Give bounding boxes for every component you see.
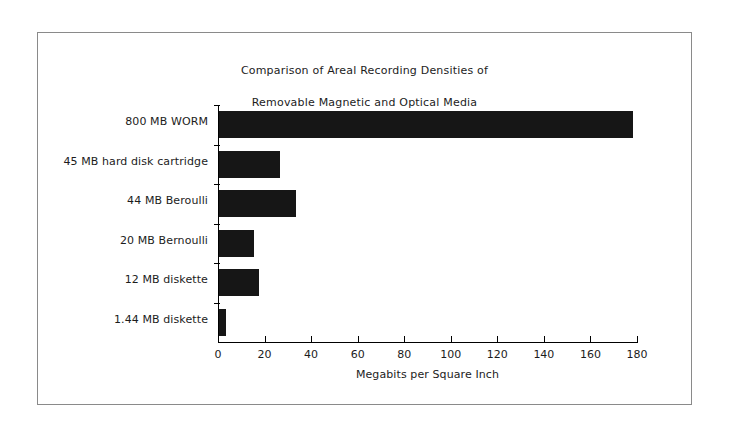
category-label: 12 MB diskette [125, 273, 208, 286]
chart-page: Comparison of Areal Recording Densities … [0, 0, 731, 440]
plot-area: 800 MB WORM 45 MB hard disk cartridge 44… [218, 105, 637, 342]
category-label: 44 MB Beroulli [127, 194, 208, 207]
y-axis-tick [214, 145, 220, 146]
x-axis-tick [451, 336, 452, 343]
x-axis-tick [590, 336, 591, 343]
y-axis-tick [214, 105, 220, 106]
y-axis-tick [214, 184, 220, 185]
x-axis-tick [637, 336, 638, 343]
x-axis-tick [311, 336, 312, 343]
x-axis-title: Megabits per Square Inch [218, 368, 637, 381]
x-axis-tick [218, 336, 219, 343]
x-axis-tick-label: 40 [304, 348, 318, 361]
category-label: 1.44 MB diskette [114, 313, 208, 326]
bar [219, 309, 226, 336]
category-label: 800 MB WORM [125, 115, 208, 128]
category-label: 45 MB hard disk cartridge [63, 155, 208, 168]
x-axis-tick [497, 336, 498, 343]
bar [219, 151, 280, 178]
bar [219, 111, 633, 138]
x-axis-tick-label: 180 [627, 348, 648, 361]
bar [219, 230, 254, 257]
x-axis-line [218, 342, 638, 343]
x-axis-tick-label: 100 [440, 348, 461, 361]
x-axis-tick-label: 20 [258, 348, 272, 361]
x-axis-tick-label: 60 [351, 348, 365, 361]
figure-frame: Comparison of Areal Recording Densities … [37, 32, 692, 405]
chart-title-line-1: Comparison of Areal Recording Densities … [38, 63, 691, 79]
y-axis-tick [214, 263, 220, 264]
x-axis-tick-label: 160 [580, 348, 601, 361]
y-axis-tick [214, 303, 220, 304]
category-label: 20 MB Bernoulli [120, 234, 208, 247]
x-axis-tick [404, 336, 405, 343]
x-axis-tick-label: 0 [215, 348, 222, 361]
bar [219, 269, 259, 296]
x-axis-tick [265, 336, 266, 343]
x-axis-tick-label: 140 [533, 348, 554, 361]
x-axis-tick [544, 336, 545, 343]
x-axis-tick-label: 120 [487, 348, 508, 361]
y-axis-tick [214, 224, 220, 225]
x-axis-tick [358, 336, 359, 343]
x-axis-tick-label: 80 [397, 348, 411, 361]
bar [219, 190, 296, 217]
